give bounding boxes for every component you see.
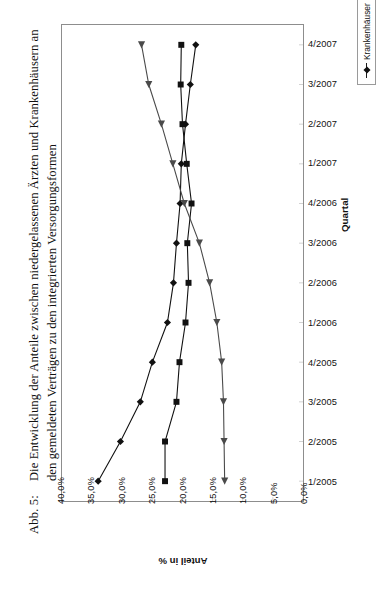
value-axis-tick: 20,0%: [178, 477, 188, 504]
figure-caption-text: Die Entwicklung der Anteile zwischen nie…: [26, 11, 62, 481]
category-axis-tick: 1/2005: [308, 477, 337, 487]
value-axis: 0,0%5,0%10,0%15,0%20,0%25,0%30,0%35,0%40…: [61, 504, 305, 560]
legend-item-label: Krankenhäuser: [362, 3, 372, 60]
category-axis-tick: 2/2007: [308, 119, 337, 129]
chart-legend: KrankenhäuserNiedergelassene Ärzte/Krank…: [357, 0, 376, 85]
chart-series-canvas: [62, 25, 303, 501]
category-axis-tick: 1/2007: [308, 158, 337, 168]
category-axis-title: Quartal: [339, 198, 350, 232]
value-axis-tick: 15,0%: [208, 477, 218, 504]
category-axis-tick: 1/2006: [308, 318, 337, 328]
figure-label: Abb. 5:: [26, 495, 42, 534]
legend-item: Krankenhäuser: [362, 3, 372, 78]
category-axis-tick: 4/2005: [308, 358, 337, 368]
category-axis-tick: 4/2007: [308, 39, 337, 49]
value-axis-tick: 25,0%: [147, 477, 157, 504]
category-axis-tick: 3/2006: [308, 238, 337, 248]
figure-page: Abb. 5: Die Entwicklung der Anteile zwis…: [0, 0, 387, 596]
category-axis-tick: 3/2005: [308, 397, 337, 407]
category-axis: 1/20052/20053/20054/20051/20062/20063/20…: [308, 24, 356, 502]
category-axis-tick: 2/2006: [308, 278, 337, 288]
diamond-marker-icon: [366, 63, 367, 78]
value-axis-tick: 5,0%: [269, 482, 279, 504]
value-axis-tick: 40,0%: [56, 477, 66, 504]
value-axis-tick: 35,0%: [86, 477, 96, 504]
category-axis-tick: 3/2007: [308, 79, 337, 89]
value-axis-tick: 30,0%: [117, 477, 127, 504]
value-axis-tick: 10,0%: [238, 477, 248, 504]
chart-plot-area: [61, 24, 304, 502]
value-axis-title: Anteil in %: [61, 556, 305, 567]
category-axis-tick: 4/2006: [308, 198, 337, 208]
category-axis-tick: 2/2005: [308, 437, 337, 447]
